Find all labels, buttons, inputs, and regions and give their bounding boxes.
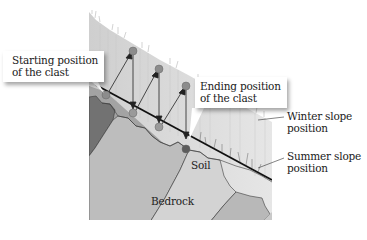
clast-heaved-3 (182, 82, 190, 90)
winter-slope-label-line1: Winter slope (287, 110, 352, 122)
winter-slope-label: Winter slope position (287, 110, 352, 134)
summer-slope-label-line1: Summer slope (287, 150, 361, 162)
bedrock-label: Bedrock (151, 195, 194, 207)
winter-slope-label-line2: position (287, 122, 352, 134)
ending-position-callout: Ending position of the clast (195, 77, 287, 108)
starting-position-label-line2: of the clast (12, 66, 98, 78)
starting-position-callout: Starting position of the clast (3, 51, 104, 82)
soil-label: Soil (191, 159, 210, 171)
clast-end (182, 145, 190, 153)
starting-position-label-line1: Starting position (12, 54, 98, 66)
summer-slope-label: Summer slope position (287, 150, 361, 174)
summer-slope-label-line2: position (287, 162, 361, 174)
ending-position-label-line1: Ending position (200, 80, 281, 92)
clast-settled-2 (155, 123, 163, 131)
clast-settled-1 (129, 109, 137, 117)
ending-position-label-line2: of the clast (200, 92, 281, 104)
clast-heaved-2 (155, 65, 163, 73)
clast-heaved-1 (129, 47, 137, 55)
